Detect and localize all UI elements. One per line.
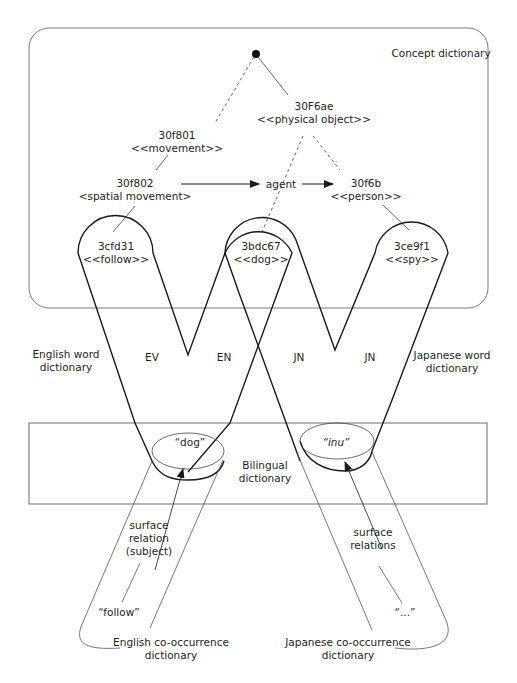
concept-label: <<spy>> — [385, 253, 439, 266]
link-person-spy — [383, 205, 409, 230]
concept-id: 30f6b — [330, 177, 401, 190]
word-inu: “inu” — [322, 436, 349, 449]
bilingual-dictionary-label: Bilingual dictionary — [239, 459, 291, 485]
concept-label: <<physical object>> — [257, 113, 371, 126]
link-physical-person — [313, 136, 340, 170]
concept-node-spatial-movement: 30f802 <spatial movement> — [79, 177, 192, 203]
surface-relation-en-label: surface relation (subject) — [126, 519, 172, 558]
word-ellipsis: “...” — [395, 606, 416, 619]
concept-label: <<person>> — [330, 190, 401, 203]
english-word-dictionary-label: English word dictionary — [32, 348, 99, 374]
english-cooccurrence-line1: English co-occurrence — [113, 636, 229, 649]
concept-node-dog: 3bdc67 <<dog>> — [234, 240, 289, 266]
agent-relation-label: agent — [266, 178, 296, 191]
word-follow: “follow” — [98, 606, 139, 619]
concept-label: <<follow>> — [83, 253, 149, 266]
japanese-word-dictionary-line1: Japanese word — [414, 349, 491, 362]
concept-label: <spatial movement> — [79, 190, 192, 203]
bilingual-dictionary-line1: Bilingual — [239, 459, 291, 472]
japanese-cooccurrence-label: Japanese co-occurrence dictionary — [285, 636, 411, 662]
surface-relation-jp-line1: surface — [350, 526, 395, 539]
english-word-dictionary-line2: dictionary — [32, 361, 99, 374]
concept-node-follow: 3cfd31 <<follow>> — [83, 240, 149, 266]
loop-label-ev: EV — [145, 351, 159, 364]
follow-to-relation-line — [122, 563, 140, 602]
concept-dictionary-label: Concept dictionary — [391, 47, 490, 60]
link-root-physical — [258, 57, 288, 95]
surface-relation-en-line3: (subject) — [126, 545, 172, 558]
japanese-word-dictionary-line2: dictionary — [414, 362, 491, 375]
concept-id: 30f801 — [131, 129, 223, 142]
surface-relation-en-line2: relation — [126, 532, 172, 545]
concept-node-physical-object: 30F6ae <<physical object>> — [257, 100, 371, 126]
english-cooccurrence-line2: dictionary — [113, 649, 229, 662]
surface-relation-jp-line2: relations — [350, 539, 395, 552]
japanese-cooccurrence-line1: Japanese co-occurrence — [285, 636, 411, 649]
bilingual-dictionary-line2: dictionary — [239, 472, 291, 485]
concept-id: 3cfd31 — [83, 240, 149, 253]
link-movement-spatial — [156, 155, 168, 170]
concept-node-movement: 30f801 <<movement>> — [131, 129, 223, 155]
loop-label-jn-1: JN — [294, 351, 305, 364]
concept-id: 30F6ae — [257, 100, 371, 113]
concept-node-person: 30f6b <<person>> — [330, 177, 401, 203]
japanese-cooccurrence-line2: dictionary — [285, 649, 411, 662]
english-word-dictionary-line1: English word — [32, 348, 99, 361]
english-cooccurrence-label: English co-occurrence dictionary — [113, 636, 229, 662]
japanese-word-dictionary-label: Japanese word dictionary — [414, 349, 491, 375]
concept-node-spy: 3ce9f1 <<spy>> — [385, 240, 439, 266]
root-node-dot — [252, 50, 260, 58]
link-root-movement — [215, 57, 254, 123]
concept-label: <<movement>> — [131, 142, 223, 155]
surface-relation-jp-label: surface relations — [350, 526, 395, 552]
concept-id: 3bdc67 — [234, 240, 289, 253]
concept-label: <<dog>> — [234, 253, 289, 266]
loop-label-jn-2: JN — [365, 351, 376, 364]
concept-dictionary-box — [29, 28, 488, 308]
concept-id: 3ce9f1 — [385, 240, 439, 253]
concept-id: 30f802 — [79, 177, 192, 190]
surface-relation-en-line1: surface — [126, 519, 172, 532]
word-dog: “dog” — [175, 436, 206, 449]
ellipsis-to-relation-line — [379, 566, 402, 603]
loop-label-en: EN — [217, 351, 232, 364]
